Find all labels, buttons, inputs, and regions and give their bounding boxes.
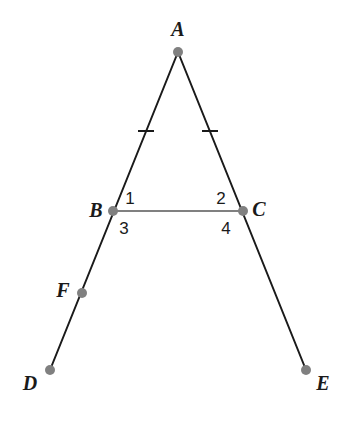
point-dot-A: [173, 47, 183, 57]
point-label-A: A: [171, 19, 184, 39]
angle-label-1: 1: [125, 190, 134, 207]
point-dot-B: [108, 206, 118, 216]
point-label-B: B: [89, 200, 102, 220]
point-dot-D: [45, 365, 55, 375]
point-label-E: E: [316, 373, 329, 393]
point-dot-C: [238, 206, 248, 216]
geometry-canvas: [0, 0, 347, 422]
angle-label-4: 4: [221, 220, 230, 237]
point-dot-F: [77, 288, 87, 298]
geometry-figure: A B C D E F 1 2 3 4: [0, 0, 347, 422]
point-label-F: F: [56, 280, 69, 300]
point-label-C: C: [252, 199, 265, 219]
angle-label-2: 2: [216, 190, 225, 207]
point-label-D: D: [23, 373, 37, 393]
angle-label-3: 3: [119, 220, 128, 237]
point-dot-E: [301, 365, 311, 375]
